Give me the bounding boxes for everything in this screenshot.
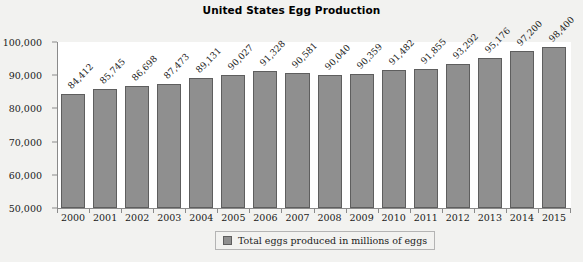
bar-slot: 84,412 [57, 42, 89, 208]
bar-slot: 87,473 [153, 42, 185, 208]
bar-slot: 91,482 [378, 42, 410, 208]
x-tick-mark [410, 209, 411, 213]
bars-layer: 84,41285,74586,69887,47389,13190,02791,3… [57, 42, 570, 208]
x-tick-mark [442, 209, 443, 213]
x-tick-label: 2003 [157, 212, 181, 223]
legend-label: Total eggs produced in millions of eggs [238, 235, 427, 246]
bar-slot: 93,292 [442, 42, 474, 208]
x-tick-label: 2006 [253, 212, 277, 223]
x-tick-mark [281, 209, 282, 213]
x-tick-label: 2005 [221, 212, 245, 223]
bar-slot: 89,131 [185, 42, 217, 208]
bar[interactable] [253, 71, 277, 208]
y-tick-label: 60,000 [9, 169, 42, 180]
x-tick-label: 2009 [350, 212, 374, 223]
x-tick-label: 2014 [510, 212, 534, 223]
x-tick-mark [89, 209, 90, 213]
x-tick-label: 2013 [478, 212, 502, 223]
bar-slot: 95,176 [474, 42, 506, 208]
x-tick-label: 2001 [93, 212, 117, 223]
chart-title: United States Egg Production [0, 4, 583, 16]
bar[interactable] [318, 75, 342, 208]
y-tick-mark [52, 141, 57, 142]
y-tick-mark [52, 42, 57, 43]
bar[interactable] [414, 69, 438, 208]
x-tick-label: 2004 [189, 212, 213, 223]
x-tick-label: 2002 [125, 212, 149, 223]
bar[interactable] [510, 51, 534, 208]
x-tick-mark [378, 209, 379, 213]
y-tick-label: 90,000 [9, 70, 42, 81]
bar[interactable] [542, 47, 566, 208]
bar-slot: 90,359 [346, 42, 378, 208]
y-tick-mark [52, 75, 57, 76]
x-tick-mark [474, 209, 475, 213]
bar[interactable] [221, 75, 245, 208]
bar[interactable] [382, 70, 406, 208]
y-tick-mark [52, 108, 57, 109]
bar-slot: 97,200 [506, 42, 538, 208]
bar[interactable] [61, 94, 85, 208]
x-tick-mark [570, 209, 571, 213]
y-tick-mark [52, 208, 57, 209]
x-tick-mark [153, 209, 154, 213]
x-tick-mark [217, 209, 218, 213]
bar[interactable] [446, 64, 470, 208]
bar[interactable] [189, 78, 213, 208]
legend-swatch-icon [223, 236, 232, 245]
bar-slot: 90,040 [314, 42, 346, 208]
x-tick-label: 2011 [414, 212, 438, 223]
bar-value-label: 98,400 [547, 15, 576, 44]
x-tick-label: 2015 [542, 212, 566, 223]
x-tick-mark [57, 209, 58, 213]
bar[interactable] [350, 74, 374, 208]
bar[interactable] [157, 84, 181, 208]
x-tick-label: 2008 [317, 212, 341, 223]
y-tick-label: 80,000 [9, 103, 42, 114]
bar[interactable] [285, 73, 309, 208]
x-tick-mark [506, 209, 507, 213]
bar-slot: 91,328 [249, 42, 281, 208]
bar-slot: 98,400 [538, 42, 570, 208]
x-tick-label: 2007 [285, 212, 309, 223]
x-tick-label: 2010 [382, 212, 406, 223]
y-tick-label: 100,000 [3, 37, 42, 48]
chart-legend: Total eggs produced in millions of eggs [215, 231, 435, 250]
egg-production-bar-chart: United States Egg Production 50,00060,00… [0, 0, 583, 262]
x-tick-label: 2000 [61, 212, 85, 223]
x-tick-mark [314, 209, 315, 213]
x-tick-mark [249, 209, 250, 213]
x-tick-mark [185, 209, 186, 213]
bar[interactable] [478, 58, 502, 208]
x-tick-mark [346, 209, 347, 213]
x-axis: 2000200120022003200420052006200720082009… [57, 209, 570, 227]
x-tick-label: 2012 [446, 212, 470, 223]
bar-slot: 90,027 [217, 42, 249, 208]
x-tick-mark [538, 209, 539, 213]
bar-slot: 85,745 [89, 42, 121, 208]
y-tick-label: 50,000 [9, 203, 42, 214]
y-tick-label: 70,000 [9, 136, 42, 147]
y-tick-mark [52, 174, 57, 175]
bar[interactable] [93, 89, 117, 208]
bar[interactable] [125, 86, 149, 208]
bar-slot: 90,581 [281, 42, 313, 208]
y-axis: 50,00060,00070,00080,00090,000100,000 [0, 42, 50, 208]
bar-slot: 86,698 [121, 42, 153, 208]
bar-slot: 91,855 [410, 42, 442, 208]
x-tick-mark [121, 209, 122, 213]
